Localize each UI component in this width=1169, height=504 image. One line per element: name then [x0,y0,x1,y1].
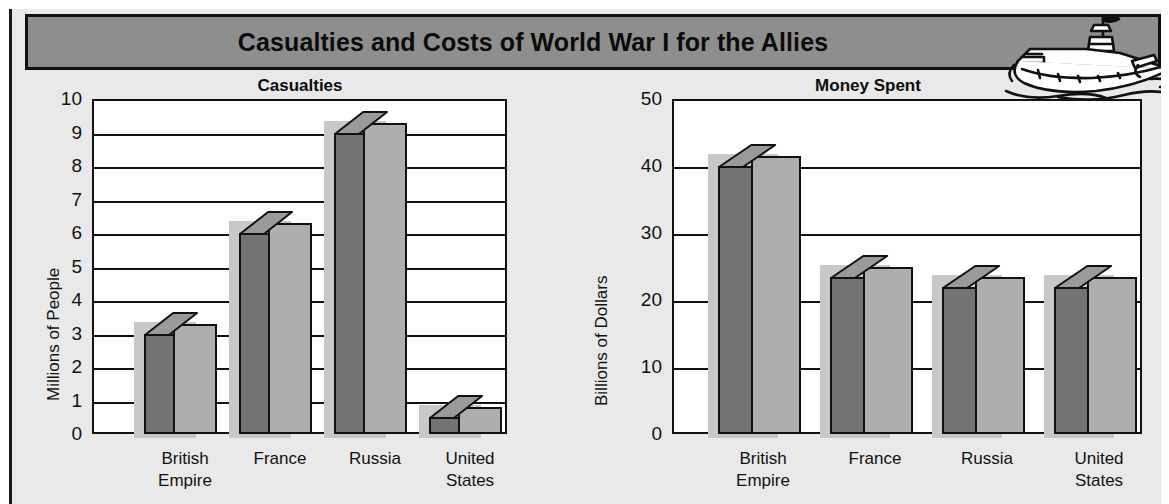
bar-top-face [830,255,920,281]
title-bar: Casualties and Costs of World War I for … [25,14,1161,70]
y-axis-tick: 2 [40,356,82,378]
y-axis-tick: 0 [40,423,82,445]
y-axis-tick: 7 [40,189,82,211]
bar-front-face [268,223,312,434]
page-title: Casualties and Costs of World War I for … [28,17,1038,67]
bar-british-empire [144,312,226,435]
y-axis-tick: 5 [40,256,82,278]
bar-france [239,211,321,434]
bar-top-face [334,111,416,137]
bar-top-face [144,312,226,338]
bar-top-face [1054,265,1144,291]
y-axis-tick: 4 [40,289,82,311]
bar-united-states [429,395,511,434]
y-axis-tick: 50 [620,88,662,110]
y-axis-tick: 1 [40,390,82,412]
bar-top-face [718,144,808,170]
y-axis-tick: 10 [40,88,82,110]
bar-top-face [239,211,321,237]
bar-front-face [863,267,913,434]
bar-russia [334,111,416,435]
y-axis-title-money-spent: Billions of Dollars [592,276,612,406]
chart-title-casualties: Casualties [20,76,580,96]
gridline [94,134,505,136]
bar-front-face [751,156,801,434]
y-axis-tick: 10 [620,356,662,378]
infographic-panel: Casualties and Costs of World War I for … [9,9,1161,504]
bar-top-face [942,265,1032,291]
bar-united-states [1054,265,1144,434]
y-axis-tick: 0 [620,423,662,445]
bar-front-face [1087,277,1137,434]
bar-russia [942,265,1032,434]
chart-money-spent: Money Spent Billions of Dollars 01020304… [572,71,1161,501]
chart-casualties: Casualties Millions of People 0123456789… [20,71,580,501]
y-axis-tick: 40 [620,155,662,177]
bar-france [830,255,920,434]
bar-front-face [173,324,217,434]
y-axis-tick: 20 [620,289,662,311]
bar-front-face [975,277,1025,434]
y-axis-tick: 8 [40,155,82,177]
gridline [94,201,505,203]
bar-front-face [363,123,407,434]
bar-top-face [429,395,511,421]
y-axis-tick: 3 [40,323,82,345]
gridline [94,167,505,169]
y-axis-tick: 9 [40,122,82,144]
x-axis-label: UnitedStates [407,448,533,492]
x-axis-label: UnitedStates [1032,448,1161,492]
bar-british-empire [718,144,808,434]
y-axis-tick: 30 [620,222,662,244]
y-axis-tick: 6 [40,222,82,244]
